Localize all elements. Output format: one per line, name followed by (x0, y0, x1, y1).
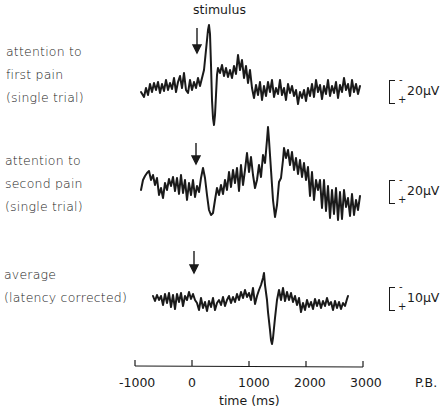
trace-average (153, 273, 348, 344)
scale-bracket (389, 180, 395, 204)
credit-label: P.B. (415, 375, 437, 390)
arrow-down-icon (193, 28, 201, 53)
tick-label: 1000 (238, 375, 270, 390)
tick-label: 2000 (294, 375, 326, 390)
polarity-minus: - (399, 74, 403, 85)
scale-value: 20μV (407, 83, 439, 98)
x-axis (135, 360, 363, 367)
scale-value: 20μV (407, 183, 439, 198)
scale-bar-trace1: - + 20μV (389, 80, 446, 104)
tick-label: -1000 (119, 375, 155, 390)
arrow-down-icon (192, 143, 200, 164)
polarity-minus: - (399, 174, 403, 185)
scale-bracket (389, 80, 395, 104)
scale-bracket (389, 287, 395, 311)
polarity-plus: + (398, 194, 406, 205)
polarity-plus: + (398, 94, 406, 105)
tick-label: 3000 (350, 375, 382, 390)
arrow-down-icon (190, 251, 198, 273)
scale-value: 10μV (407, 290, 439, 305)
polarity-minus: - (399, 281, 403, 292)
tick-label: 0 (188, 375, 196, 390)
scale-bar-trace2: - + 20μV (389, 180, 446, 204)
trace-second-pain (141, 127, 360, 220)
x-axis-title: time (ms) (219, 393, 280, 408)
waveform-plot (0, 0, 446, 412)
polarity-plus: + (398, 301, 406, 312)
scale-bar-trace3: - + 10μV (389, 287, 446, 311)
trace-first-pain (141, 25, 360, 125)
